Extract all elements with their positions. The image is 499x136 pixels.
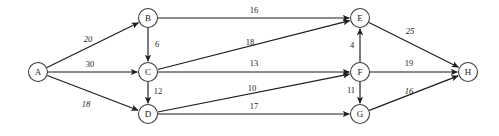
edge-weight-g-h: 16: [405, 86, 414, 96]
graph-node-a[interactable]: A: [29, 63, 48, 82]
graph-node-e[interactable]: E: [351, 9, 370, 28]
graph-node-h[interactable]: H: [459, 63, 478, 82]
graph-node-d[interactable]: D: [139, 105, 158, 124]
edge-weight-d-f: 10: [248, 83, 257, 93]
node-label-h: H: [465, 67, 472, 77]
edge-weight-a-b: 20: [84, 34, 93, 44]
edge-weight-c-f: 13: [250, 58, 259, 68]
graph-edge-g-h: [369, 76, 458, 110]
edge-weight-b-c: 6: [155, 39, 159, 49]
network-diagram-canvas: 2030186161813121017411251916 ABCDEFGH: [0, 0, 499, 136]
edge-weight-c-e: 18: [246, 37, 255, 47]
node-label-e: E: [357, 13, 363, 23]
graph-node-f[interactable]: F: [351, 63, 370, 82]
network-graph: 2030186161813121017411251916 ABCDEFGH: [0, 0, 499, 136]
node-label-g: G: [357, 109, 364, 119]
node-label-b: B: [145, 13, 151, 23]
node-label-f: F: [357, 67, 362, 77]
edge-weight-a-d: 18: [82, 99, 91, 109]
graph-node-b[interactable]: B: [139, 9, 158, 28]
edge-weight-d-g: 17: [250, 101, 259, 111]
edge-weight-c-d: 12: [154, 86, 163, 96]
graph-edge-a-d: [47, 76, 138, 111]
edge-weight-f-e: 4: [350, 40, 355, 50]
edge-weight-b-e: 16: [250, 5, 259, 15]
node-label-c: C: [145, 67, 151, 77]
graph-node-g[interactable]: G: [351, 105, 370, 124]
edge-weight-f-h: 19: [405, 58, 414, 68]
node-label-a: A: [35, 67, 42, 77]
graph-node-c[interactable]: C: [139, 63, 158, 82]
edge-weight-f-g: 11: [347, 85, 355, 95]
node-label-d: D: [145, 109, 152, 119]
edge-weight-e-h: 25: [406, 26, 415, 36]
edge-weight-a-c: 30: [86, 59, 95, 69]
